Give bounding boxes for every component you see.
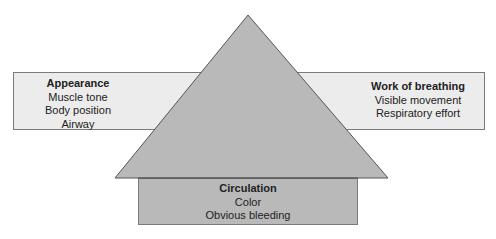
assessment-triangle	[0, 0, 496, 239]
